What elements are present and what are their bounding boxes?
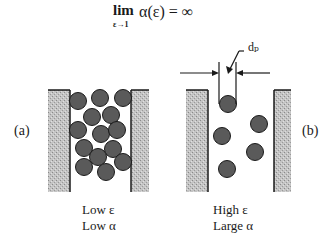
panel-a-left-wall — [48, 90, 70, 192]
panel-b-walls — [186, 90, 291, 192]
panel-b-caption-alpha: Large α — [213, 218, 253, 234]
panel-a-caption: Low ε Low α — [82, 202, 116, 234]
panel-b-caption: High ε Large α — [213, 202, 253, 234]
panel-b-left-wall — [186, 90, 208, 192]
panel-b-caption-porosity: High ε — [213, 202, 253, 218]
panel-a-caption-porosity: Low ε — [82, 202, 116, 218]
panel-a-label: (a) — [14, 123, 30, 139]
panel-b-right-wall — [274, 90, 291, 192]
porosity-diagram — [0, 0, 335, 250]
panel-a-particles — [70, 90, 132, 181]
dp-label: dₚ — [248, 40, 259, 55]
panel-b-particles — [214, 96, 268, 178]
panel-a-right-wall — [131, 90, 149, 192]
panel-b-label: (b) — [302, 123, 318, 139]
panel-a-caption-alpha: Low α — [82, 218, 116, 234]
